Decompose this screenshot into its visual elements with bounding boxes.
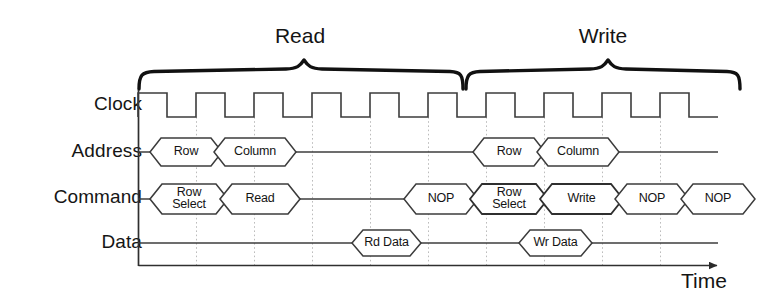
- command-label-read: Read: [220, 193, 300, 205]
- timing-diagram: Clock Address Command Data Read Write Ti…: [0, 0, 759, 300]
- command-label-row-select-1: Row Select: [150, 186, 228, 210]
- command-label-write: Write: [540, 193, 623, 205]
- address-label-row-1: Row: [150, 146, 222, 158]
- command-label-nop-2: NOP: [615, 193, 689, 205]
- data-label-rd-data: Rd Data: [352, 237, 421, 249]
- command-label-nop-3: NOP: [681, 193, 755, 205]
- command-label-row-select-2: Row Select: [470, 186, 548, 210]
- address-label-row-2: Row: [473, 146, 545, 158]
- data-label-wr-data: Wr Data: [519, 237, 592, 249]
- brace-read: [139, 60, 463, 89]
- address-label-column-1: Column: [214, 146, 296, 158]
- diagram-canvas: [0, 0, 759, 300]
- command-label-row-select-2-line2: Select: [492, 197, 526, 211]
- command-label-nop-1: NOP: [404, 193, 478, 205]
- command-label-row-select-1-line2: Select: [172, 197, 206, 211]
- clock-waveform: [138, 93, 718, 117]
- address-label-column-2: Column: [537, 146, 619, 158]
- brace-write: [466, 60, 740, 89]
